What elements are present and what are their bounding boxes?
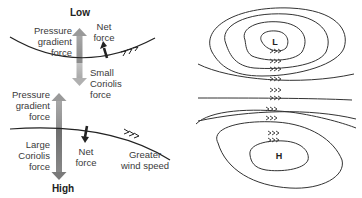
svg-text:Small: Small — [90, 67, 114, 78]
pressure-gradient-label: Pressure gradient force — [12, 89, 50, 122]
svg-text:wind speed: wind speed — [120, 160, 169, 171]
wind-direction-chevrons-icon — [266, 49, 281, 142]
low-title: Low — [70, 7, 90, 18]
pressure-gradient-label: Pressure gradient force — [34, 25, 72, 58]
svg-text:gradient: gradient — [38, 36, 73, 47]
pressure-gradient-force-arrow-icon — [52, 93, 67, 128]
high-pressure-force-diagram: Pressure gradient force Large Coriolis f… — [10, 89, 170, 194]
large-coriolis-force-arrow-icon — [52, 128, 67, 180]
small-coriolis-force-arrow-icon — [72, 63, 87, 86]
svg-text:force: force — [75, 157, 96, 168]
diagram-canvas: Low Pressure gradient force — [0, 0, 362, 198]
svg-text:force: force — [90, 89, 111, 100]
large-coriolis-label: Large Coriolis force — [18, 139, 50, 172]
svg-text:Greater: Greater — [129, 149, 161, 160]
svg-text:force: force — [29, 161, 50, 172]
small-coriolis-label: Small Coriolis force — [90, 67, 122, 100]
svg-text:Coriolis: Coriolis — [90, 78, 122, 89]
svg-text:Net: Net — [97, 21, 112, 32]
high-title: High — [52, 183, 74, 194]
net-force-arrow-icon — [81, 126, 89, 143]
svg-text:Coriolis: Coriolis — [18, 150, 50, 161]
svg-text:Large: Large — [26, 139, 50, 150]
isobar-map — [196, 8, 356, 188]
svg-text:Pressure: Pressure — [12, 89, 50, 100]
high-center-label: H — [276, 151, 283, 161]
flow-direction-chevrons-icon — [124, 129, 139, 138]
svg-text:Pressure: Pressure — [34, 25, 72, 36]
greater-wind-speed-label: Greater wind speed — [120, 149, 169, 171]
low-center-label: L — [272, 37, 278, 47]
flow-direction-chevrons-icon — [121, 47, 138, 56]
low-pressure-force-diagram: Low Pressure gradient force — [10, 7, 155, 100]
svg-text:Net: Net — [79, 146, 94, 157]
svg-text:gradient: gradient — [16, 100, 51, 111]
net-force-label: Net force — [93, 21, 114, 43]
svg-text:force: force — [93, 32, 114, 43]
svg-text:force: force — [29, 111, 50, 122]
net-force-label: Net force — [75, 146, 96, 168]
svg-text:force: force — [51, 47, 72, 58]
